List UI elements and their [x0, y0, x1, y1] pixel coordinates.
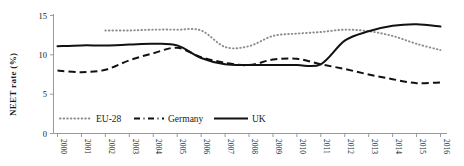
series-line-uk: [58, 24, 441, 66]
y-axis-title-text: NEET rate (%): [8, 53, 18, 116]
y-tick-group: 0 5 10 15: [39, 11, 54, 139]
x-tick-label-2016: 2016: [442, 139, 451, 154]
x-tick-label-2007: 2007: [226, 139, 235, 154]
y-tick-label-0: 0: [43, 129, 47, 139]
neet-rate-line-chart: NEET rate (%) 0 5 10 15 2000200120022003…: [0, 0, 464, 166]
x-tick-label-2000: 2000: [59, 139, 68, 154]
legend-label-germany: Germany: [168, 114, 204, 124]
chart-legend: EU-28GermanyUK: [60, 114, 266, 124]
y-tick-label-15: 15: [39, 11, 48, 21]
y-tick-label-5: 5: [43, 89, 47, 99]
chart-canvas: NEET rate (%) 0 5 10 15 2000200120022003…: [0, 0, 464, 166]
legend-label-uk: UK: [252, 114, 266, 124]
legend-label-eu28: EU-28: [96, 114, 122, 124]
x-tick-label-2015: 2015: [418, 139, 427, 154]
x-tick-label-2005: 2005: [178, 139, 187, 154]
y-tick-label-10: 10: [39, 50, 48, 60]
x-tick-label-2003: 2003: [131, 139, 140, 154]
x-tick-label-2006: 2006: [202, 139, 211, 154]
x-tick-label-2014: 2014: [394, 139, 403, 154]
x-tick-label-2012: 2012: [346, 139, 355, 154]
x-tick-label-2004: 2004: [154, 139, 163, 154]
x-tick-label-2009: 2009: [274, 139, 283, 154]
x-tick-label-2011: 2011: [322, 139, 331, 154]
series-group: [58, 24, 441, 83]
y-axis-title: NEET rate (%): [8, 53, 18, 116]
x-tick-label-2008: 2008: [250, 139, 259, 154]
x-tick-label-2010: 2010: [298, 139, 307, 154]
x-tick-label-2013: 2013: [370, 139, 379, 154]
x-tick-label-2001: 2001: [83, 139, 92, 154]
series-line-eu28: [105, 29, 440, 50]
x-tick-group: 2000200120022003200420052006200720082009…: [58, 134, 451, 155]
x-tick-label-2002: 2002: [107, 139, 116, 154]
